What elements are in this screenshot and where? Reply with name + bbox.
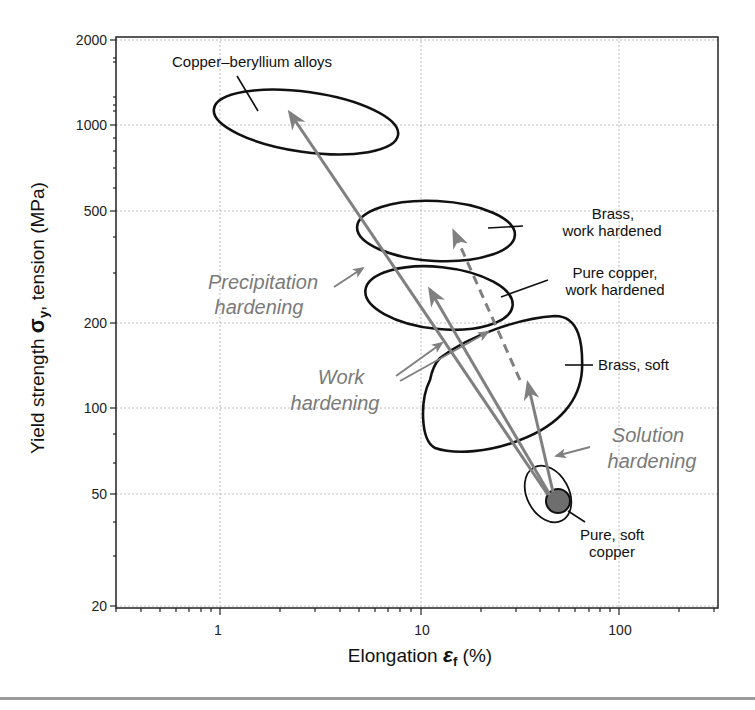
y-tick-50: 50: [91, 486, 107, 502]
x-tick-100: 100: [608, 622, 632, 638]
mechanism-solution-line2: hardening: [608, 450, 697, 472]
y-tick-500: 500: [84, 203, 108, 219]
mechanism-pointers: [334, 268, 590, 456]
x-tick-10: 10: [414, 622, 430, 638]
label-brass-soft: Brass, soft: [598, 356, 670, 373]
label-copper-beryllium: Copper–beryllium alloys: [172, 53, 332, 70]
y-tick-100: 100: [84, 400, 108, 416]
grid-lines: [116, 37, 718, 608]
bubble-copper-beryllium: [210, 79, 403, 164]
y-tick-1000: 1000: [76, 117, 107, 133]
mechanism-work-line1: Work: [318, 366, 366, 388]
bubble-brass-soft: [423, 316, 582, 452]
y-tick-200: 200: [84, 315, 108, 331]
bubble-brass-work-hardened: [356, 197, 517, 265]
y-tick-labels: 2000 1000 500 200 100 50 20: [76, 32, 107, 614]
label-brass-wh-line1: Brass,: [592, 205, 635, 222]
x-tick-labels: 1 10 100: [214, 622, 632, 638]
bottom-divider: [0, 697, 755, 700]
mechanism-work-line2: hardening: [291, 392, 380, 414]
y-axis-ticks: [110, 40, 116, 606]
label-pure-copper-wh-line1: Pure copper,: [572, 264, 657, 281]
label-pure-soft-copper-line1: Pure, soft: [580, 526, 645, 543]
label-brass-wh-line2: work hardened: [561, 222, 661, 239]
x-axis-ticks: [116, 608, 714, 615]
mechanism-precipitation-line2: hardening: [215, 296, 304, 318]
y-tick-2000: 2000: [76, 32, 107, 48]
property-chart: 2000 1000 500 200 100 50 20 1 10 100 Elo…: [0, 0, 755, 710]
y-tick-20: 20: [91, 598, 107, 614]
bubble-pure-copper-work-hardened: [362, 259, 516, 336]
work-hardening-arrow-brass-dashed: [454, 232, 520, 380]
y-axis-title: Yield strength σy, tension (MPa): [24, 182, 51, 454]
mechanism-solution-line1: Solution: [612, 424, 684, 446]
precipitation-arrow: [290, 113, 548, 495]
label-pure-soft-copper-line2: copper: [589, 543, 635, 560]
work-hardening-arrow-copper: [430, 290, 550, 495]
mechanism-precipitation-line1: Precipitation: [208, 271, 318, 293]
x-axis-title: Elongation εf (%): [348, 643, 492, 669]
solution-arrow: [528, 384, 553, 492]
label-pure-copper-wh-line2: work hardened: [564, 281, 664, 298]
x-tick-1: 1: [214, 622, 222, 638]
